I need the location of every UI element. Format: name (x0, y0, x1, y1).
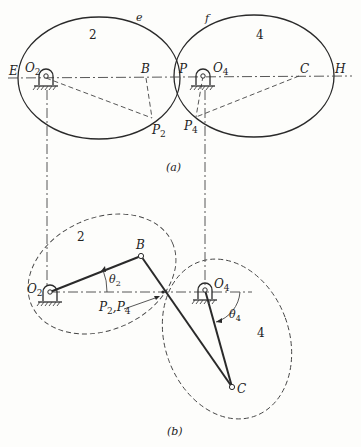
label-C-b: C (237, 382, 246, 396)
gear-4-number-b: 4 (257, 326, 265, 340)
gear-4-pitch-ellipse (141, 241, 314, 438)
pitch-point (161, 290, 164, 293)
elliptical-gears-diagram: 2 e 4 f E O2 B P O4 C H P2 P4 (a) (0, 0, 361, 447)
label-O4-b: O4 (214, 277, 230, 293)
gear-2-number-b: 2 (77, 230, 85, 244)
theta2-arc (103, 270, 107, 292)
label-P2P4: P2,P4 (98, 300, 131, 316)
link-o2-b (50, 256, 141, 292)
label-P: P (178, 62, 188, 76)
b-p2-line (146, 78, 152, 118)
theta4-arrow (216, 318, 222, 323)
curve-e-label: e (136, 11, 143, 24)
label-P2: P2 (151, 123, 166, 139)
caption-a: (a) (166, 161, 181, 174)
theta2-arrow (101, 266, 106, 272)
gear-2-pitch-ellipse (9, 192, 195, 357)
label-P4: P4 (183, 119, 198, 135)
label-H: H (334, 62, 346, 76)
part-a-elliptical-gears: 2 e 4 f E O2 B P O4 C H P2 P4 (a) (8, 11, 352, 174)
label-B-b: B (135, 238, 145, 252)
gear-2-number: 2 (89, 28, 97, 42)
o4-p4-line (196, 76, 203, 117)
label-O4: O4 (213, 61, 229, 77)
label-B-a: B (140, 62, 150, 76)
label-theta4: θ4 (229, 308, 241, 323)
label-E: E (8, 64, 18, 78)
o2-p2-line (46, 78, 152, 118)
joint-c (229, 384, 234, 389)
link-o4-c (205, 290, 232, 387)
curve-f-label: f (204, 12, 211, 25)
gear-2-ellipse (18, 17, 180, 139)
label-O2-b: O2 (27, 282, 43, 298)
part-b-equivalent-linkage: 2 4 O2 B θ2 P2,P4 O4 θ4 C (b) (9, 192, 313, 438)
caption-b: (b) (167, 425, 183, 438)
gear-4-number: 4 (256, 28, 264, 42)
label-O2: O2 (25, 61, 41, 77)
label-theta2: θ2 (109, 273, 121, 288)
c-p4-line (196, 76, 299, 117)
label-C-a: C (300, 62, 309, 76)
joint-b (138, 253, 143, 258)
